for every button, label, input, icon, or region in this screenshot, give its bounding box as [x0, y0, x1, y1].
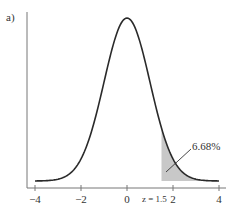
percent-annotation: 6.68% [192, 140, 220, 152]
density-curve [35, 18, 219, 181]
x-tick-label: 4 [216, 193, 222, 205]
x-tick-label: −4 [29, 193, 41, 205]
normal-distribution-chart: −4−2024 6.68% z = 1.5 a) [0, 0, 240, 218]
panel-label: a) [6, 11, 15, 24]
x-tick-label: −2 [75, 193, 87, 205]
x-tick-label: 2 [170, 193, 176, 205]
z-marker-label: z = 1.5 [142, 194, 167, 204]
x-tick-label: 0 [124, 193, 130, 205]
